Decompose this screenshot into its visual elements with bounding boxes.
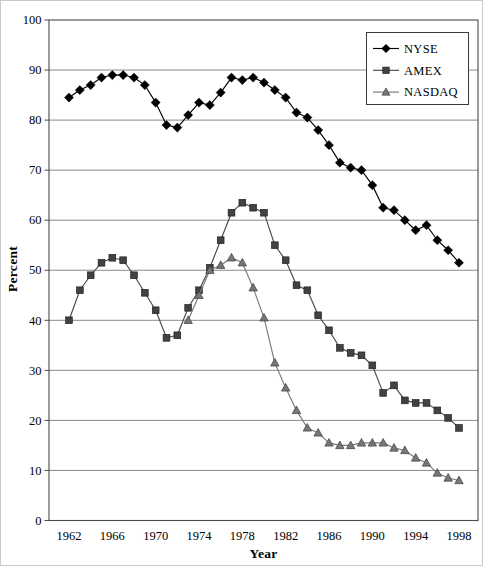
amex-marker <box>315 312 322 319</box>
amex-marker <box>282 257 289 264</box>
amex-marker <box>250 204 257 211</box>
x-tick-label: 1982 <box>273 529 298 543</box>
nyse-marker <box>238 75 247 84</box>
nasdaq-marker <box>227 253 235 261</box>
nyse-marker <box>64 93 73 102</box>
nasdaq-marker <box>411 454 419 462</box>
y-tick-label: 0 <box>35 514 41 528</box>
nasdaq-line <box>188 258 459 481</box>
y-axis-title: Percent <box>5 246 21 292</box>
legend: NYSEAMEXNASDAQ <box>367 33 469 105</box>
amex-marker <box>98 259 105 266</box>
nasdaq-marker <box>303 424 311 432</box>
nyse-marker <box>270 85 279 94</box>
amex-marker <box>336 344 343 351</box>
x-tick-label: 1986 <box>317 529 342 543</box>
nyse-marker <box>281 93 290 102</box>
amex-marker <box>87 272 94 279</box>
amex-marker <box>271 242 278 249</box>
chart-figure: 0102030405060708090100196219661970197419… <box>0 0 483 566</box>
amex-marker <box>185 304 192 311</box>
amex-marker <box>326 327 333 334</box>
amex-marker <box>380 389 387 396</box>
nyse-marker <box>97 73 106 82</box>
y-tick-label: 20 <box>29 414 42 428</box>
nyse-marker <box>368 181 377 190</box>
amex-marker <box>120 257 127 264</box>
x-tick-label: 1990 <box>360 529 385 543</box>
nasdaq-marker <box>292 406 300 414</box>
nyse-marker <box>422 221 431 230</box>
nyse-marker <box>140 80 149 89</box>
nyse-marker <box>119 70 128 79</box>
amex-marker <box>239 199 246 206</box>
nyse-marker <box>357 166 366 175</box>
amex-marker <box>423 399 430 406</box>
y-tick-label: 80 <box>29 113 42 127</box>
nyse-marker <box>324 141 333 150</box>
amex-marker <box>141 289 148 296</box>
amex-marker <box>66 317 73 324</box>
nyse-marker <box>75 85 84 94</box>
nyse-marker <box>335 158 344 167</box>
x-tick-label: 1978 <box>230 529 255 543</box>
nyse-marker <box>129 73 138 82</box>
amex-marker <box>358 352 365 359</box>
y-tick-label: 50 <box>29 263 42 277</box>
y-tick-label: 90 <box>29 63 42 77</box>
amex-marker <box>261 209 268 216</box>
legend-label: NYSE <box>404 42 438 56</box>
amex-marker <box>369 362 376 369</box>
amex-marker <box>456 425 463 432</box>
nasdaq-marker <box>260 313 268 321</box>
y-tick-label: 30 <box>29 364 42 378</box>
x-tick-label: 1966 <box>100 529 125 543</box>
nyse-marker <box>108 70 117 79</box>
nasdaq-marker <box>390 444 398 452</box>
nyse-marker <box>249 73 258 82</box>
nasdaq-marker <box>314 429 322 437</box>
amex-marker <box>412 399 419 406</box>
amex-marker <box>217 237 224 244</box>
amex-marker <box>228 209 235 216</box>
legend-label: NASDAQ <box>404 85 458 99</box>
nyse-marker <box>151 98 160 107</box>
legend-marker <box>383 67 389 73</box>
amex-marker <box>293 282 300 289</box>
amex-marker <box>152 307 159 314</box>
nyse-marker <box>86 80 95 89</box>
nasdaq-marker <box>271 358 279 366</box>
amex-marker <box>304 287 311 294</box>
nasdaq-marker <box>444 474 452 482</box>
x-tick-label: 1998 <box>447 529 472 543</box>
amex-marker <box>76 287 83 294</box>
y-tick-label: 10 <box>29 464 42 478</box>
legend-label: AMEX <box>404 64 442 78</box>
y-tick-label: 40 <box>29 314 42 328</box>
amex-marker <box>434 407 441 414</box>
amex-marker <box>131 272 138 279</box>
x-tick-label: 1994 <box>403 529 429 543</box>
amex-marker <box>347 349 354 356</box>
nyse-marker <box>379 203 388 212</box>
amex-marker <box>174 332 181 339</box>
amex-marker <box>163 334 170 341</box>
nyse-marker <box>346 163 355 172</box>
nasdaq-marker <box>422 459 430 467</box>
chart-canvas: 0102030405060708090100196219661970197419… <box>1 1 483 566</box>
nasdaq-marker <box>281 383 289 391</box>
nyse-marker <box>259 78 268 87</box>
amex-marker <box>109 254 116 261</box>
nasdaq-series <box>184 253 463 483</box>
nasdaq-marker <box>249 283 257 291</box>
y-tick-label: 60 <box>29 213 42 227</box>
x-tick-label: 1974 <box>187 529 213 543</box>
nasdaq-marker <box>216 261 224 269</box>
y-tick-label: 100 <box>23 13 42 27</box>
nasdaq-marker <box>368 439 376 447</box>
nasdaq-marker <box>184 316 192 324</box>
nasdaq-marker <box>379 439 387 447</box>
nasdaq-marker <box>238 258 246 266</box>
nyse-marker <box>162 121 171 130</box>
amex-marker <box>445 414 452 421</box>
